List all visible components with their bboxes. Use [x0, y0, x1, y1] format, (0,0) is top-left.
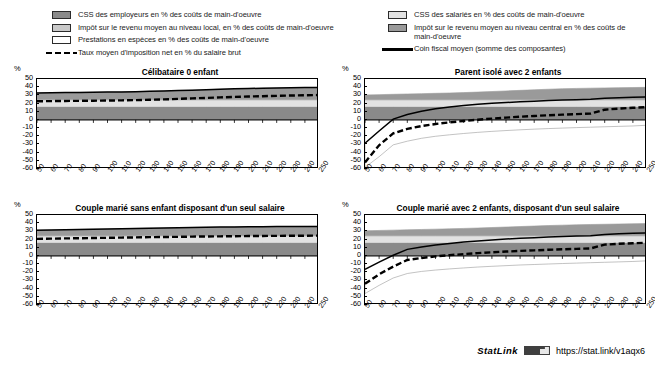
y-tick-mark: [364, 94, 367, 95]
area-band: [37, 107, 318, 120]
y-tick-mark: [36, 152, 39, 153]
y-tick-mark: [36, 239, 39, 240]
legend-item-label: Prestations en espèces en % des coûts de…: [78, 35, 269, 45]
x-axis-labels: 5060708090100110120130140150160170180190…: [36, 169, 318, 193]
y-tick-mark: [364, 230, 367, 231]
y-tick-mark: [364, 296, 367, 297]
x-tick-label: 250: [645, 295, 655, 309]
x-axis-labels: 5060708090100110120130140150160170180190…: [364, 169, 646, 193]
y-tick-mark: [364, 304, 367, 305]
y-tick-mark: [36, 279, 39, 280]
y-tick-mark: [36, 255, 39, 256]
plot-area: [364, 78, 646, 168]
y-tick-mark: [364, 86, 367, 87]
y-tick-mark: [364, 168, 367, 169]
legend-item-local-tax: Impôt sur le revenu moyen au niveau loca…: [52, 23, 382, 33]
panel-title: Couple marié sans enfant disposant d'un …: [36, 203, 324, 213]
benefits-swatch-icon: [52, 36, 71, 44]
y-tick-mark: [36, 214, 39, 215]
solid-line-sample-icon: [388, 45, 407, 53]
y-tick-mark: [364, 160, 367, 161]
plot-svg: [37, 215, 318, 304]
y-tick-mark: [364, 247, 367, 248]
x-axis-labels: 5060708090100110120130140150160170180190…: [364, 305, 646, 329]
legend-item-label: Impôt sur le revenu moyen au niveau cent…: [414, 23, 646, 42]
chart-panel-celibataire-0-enfant: % Célibataire 0 enfant 50403020100-10-20…: [2, 64, 324, 194]
panel-title: Parent isolé avec 2 enfants: [364, 67, 652, 77]
y-tick-mark: [36, 271, 39, 272]
y-axis-labels: 50403020100-10-20-30-40-50-60: [10, 214, 34, 304]
legend-item-label: Taux moyen d'imposition net en % du sala…: [78, 48, 241, 58]
y-tick-mark: [364, 127, 367, 128]
chart-legend: CSS des employeurs en % des coûts de mai…: [0, 10, 655, 62]
y-axis-labels: 50403020100-10-20-30-40-50-60: [338, 214, 362, 304]
plot-area: [36, 214, 318, 304]
y-tick-mark: [36, 78, 39, 79]
panel-title: Célibataire 0 enfant: [36, 67, 324, 77]
y-tick-mark: [36, 222, 39, 223]
plot-svg: [365, 215, 646, 304]
statlink[interactable]: StatLink https://stat.link/v1aqx6: [477, 345, 645, 356]
y-tick-mark: [36, 296, 39, 297]
y-tick-mark: [364, 103, 367, 104]
x-axis-labels: 5060708090100110120130140150160170180190…: [36, 305, 318, 329]
chart-panel-parent-isole-2-enfants: % Parent isolé avec 2 enfants 5040302010…: [330, 64, 652, 194]
chart-panel-couple-marie-sans-enfant: % Couple marié sans enfant disposant d'u…: [2, 200, 324, 330]
y-tick-mark: [364, 152, 367, 153]
legend-item-net-tax-rate: Taux moyen d'imposition net en % du sala…: [52, 48, 382, 58]
area-band: [37, 100, 318, 107]
y-tick-mark: [364, 111, 367, 112]
y-tick-mark: [364, 78, 367, 79]
legend-item-label: Impôt sur le revenu moyen au niveau loca…: [78, 23, 334, 33]
y-axis-unit: %: [342, 64, 349, 73]
plot-frame: [36, 78, 318, 168]
local-tax-swatch-icon: [52, 24, 71, 32]
plot-frame: [364, 214, 646, 304]
y-tick-mark: [36, 111, 39, 112]
legend-column-right: CSS des salariés en % des coûts de main-…: [388, 10, 653, 57]
plot-area: [364, 214, 646, 304]
legend-item-tax-wedge: Coin fiscal moyen (somme des composantes…: [388, 44, 653, 54]
y-tick-mark: [36, 119, 39, 120]
statlink-url[interactable]: https://stat.link/v1aqx6: [556, 346, 645, 356]
plot-frame: [364, 78, 646, 168]
area-band: [365, 256, 646, 294]
area-band: [365, 120, 646, 167]
y-tick-mark: [364, 214, 367, 215]
legend-item-label: CSS des salariés en % des coûts de main-…: [414, 10, 584, 20]
legend-column-left: CSS des employeurs en % des coûts de mai…: [52, 10, 382, 60]
y-tick-mark: [36, 247, 39, 248]
y-tick-mark: [364, 288, 367, 289]
legend-item-label: Coin fiscal moyen (somme des composantes…: [414, 44, 566, 54]
y-tick-mark: [36, 288, 39, 289]
y-tick-mark: [36, 103, 39, 104]
y-tick-mark: [36, 127, 39, 128]
y-axis-unit: %: [342, 200, 349, 209]
y-tick-mark: [364, 279, 367, 280]
statlink-label: StatLink: [477, 345, 518, 356]
y-tick-mark: [364, 135, 367, 136]
y-tick-mark: [36, 263, 39, 264]
plot-svg: [365, 79, 646, 168]
y-tick-mark: [36, 143, 39, 144]
plot-svg: [37, 79, 318, 168]
y-tick-mark: [364, 271, 367, 272]
y-axis-labels: 50403020100-10-20-30-40-50-60: [338, 78, 362, 168]
y-tick-label: -60: [22, 164, 33, 171]
y-tick-label: -60: [22, 300, 33, 307]
x-tick-label: 250: [317, 295, 330, 309]
plot-frame: [36, 214, 318, 304]
y-tick-mark: [364, 255, 367, 256]
y-tick-mark: [36, 168, 39, 169]
y-tick-label: -60: [350, 300, 361, 307]
y-tick-mark: [364, 119, 367, 120]
employee-swatch-icon: [388, 11, 407, 19]
y-tick-mark: [36, 135, 39, 136]
y-tick-mark: [364, 263, 367, 264]
legend-item-central-tax: Impôt sur le revenu moyen au niveau cent…: [388, 23, 653, 42]
y-tick-label: -60: [350, 164, 361, 171]
y-axis-unit: %: [14, 200, 21, 209]
y-tick-mark: [364, 143, 367, 144]
y-axis-labels: 50403020100-10-20-30-40-50-60: [10, 78, 34, 168]
legend-item-employee-css: CSS des salariés en % des coûts de main-…: [388, 10, 653, 20]
